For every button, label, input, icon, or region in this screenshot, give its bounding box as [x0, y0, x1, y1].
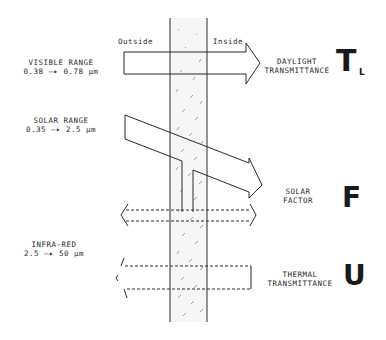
solar-range-values: 0.35 —▸ 2.5 μm — [16, 125, 106, 134]
glass-pane — [170, 18, 207, 322]
solar-factor-line2: FACTOR — [278, 196, 318, 205]
symbol-u: U — [343, 262, 366, 290]
infrared-range-values: 2.5 —▸ 50 μm — [14, 249, 94, 258]
visible-range-values: 0.38 —▸ 0.78 μm — [16, 67, 106, 76]
infrared-range-label: INFRA-RED 2.5 —▸ 50 μm — [14, 240, 94, 258]
visible-range-title: VISIBLE RANGE — [16, 58, 106, 67]
thermal-transmittance-label: THERMAL TRANSMITTANCE — [262, 270, 338, 288]
thermal-transmittance-line1: THERMAL — [262, 270, 338, 279]
symbol-tl: T — [336, 46, 356, 76]
daylight-transmittance-line1: DAYLIGHT — [258, 57, 336, 66]
solar-factor-label: SOLAR FACTOR — [278, 187, 318, 205]
solar-range-title: SOLAR RANGE — [16, 116, 106, 125]
solar-factor-line1: SOLAR — [278, 187, 318, 196]
diagram-graphics — [0, 0, 386, 340]
infrared-range-title: INFRA-RED — [14, 240, 94, 249]
outside-label: Outside — [118, 37, 153, 46]
solar-range-label: SOLAR RANGE 0.35 —▸ 2.5 μm — [16, 116, 106, 134]
glazing-diagram: Outside Inside VISIBLE RANGE 0.38 —▸ 0.7… — [0, 0, 386, 340]
daylight-transmittance-line2: TRANSMITTANCE — [258, 66, 336, 75]
thermal-transmittance-line2: TRANSMITTANCE — [262, 279, 338, 288]
daylight-transmittance-label: DAYLIGHT TRANSMITTANCE — [258, 57, 336, 75]
inside-label: Inside — [213, 37, 243, 46]
symbol-tl-subscript: L — [359, 67, 365, 77]
symbol-f: F — [342, 184, 361, 212]
visible-range-label: VISIBLE RANGE 0.38 —▸ 0.78 μm — [16, 58, 106, 76]
